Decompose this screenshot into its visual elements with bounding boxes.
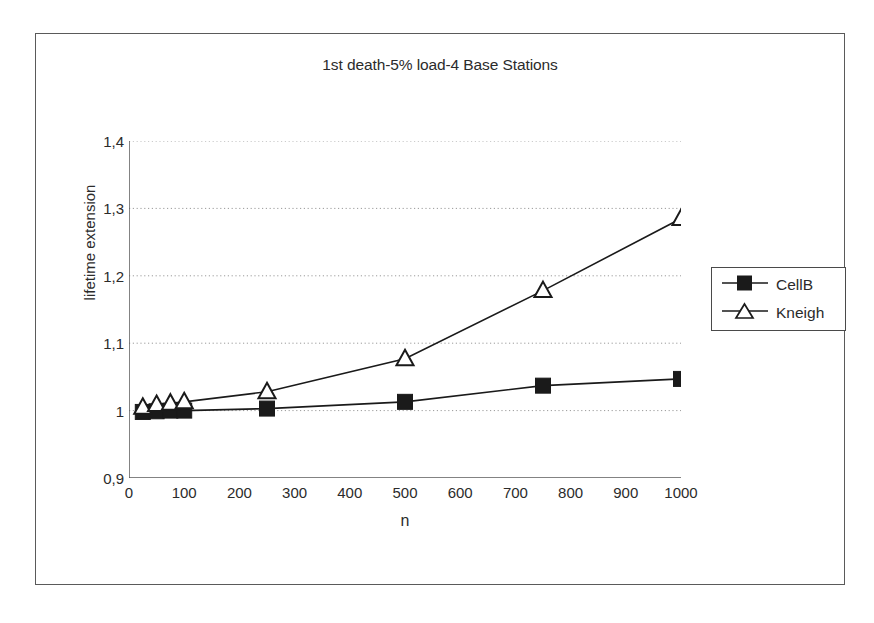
legend-label-kneigh: Kneigh <box>776 304 824 322</box>
gridlines <box>129 141 681 411</box>
x-axis-title: n <box>129 512 681 530</box>
x-tick-label: 500 <box>392 484 417 501</box>
x-tick-label: 300 <box>282 484 307 501</box>
open-triangle-marker-icon <box>720 302 770 324</box>
y-tick-label: 1,4 <box>103 133 124 150</box>
axis-ticks <box>129 141 681 478</box>
x-tick-label: 1000 <box>664 484 697 501</box>
x-tick-label: 900 <box>613 484 638 501</box>
chart-legend: CellB Kneigh <box>711 267 846 331</box>
y-tick-label: 0,9 <box>103 470 124 487</box>
y-tick-label: 1 <box>116 402 124 419</box>
x-tick-label: 700 <box>503 484 528 501</box>
x-axis-tick-labels: 01002003004005006007008009001000 <box>129 484 681 508</box>
data-series-layer <box>134 210 681 420</box>
legend-item-kneigh: Kneigh <box>720 299 845 327</box>
y-tick-label: 1,1 <box>103 335 124 352</box>
x-tick-label: 100 <box>172 484 197 501</box>
y-axis-title: lifetime extension <box>81 143 98 343</box>
x-tick-label: 800 <box>558 484 583 501</box>
axis-lines <box>129 141 681 478</box>
x-tick-label: 0 <box>125 484 133 501</box>
legend-item-cellb: CellB <box>720 271 845 299</box>
figure-frame: 1st death-5% load-4 Base Stations 0,911,… <box>35 33 845 585</box>
y-tick-label: 1,2 <box>103 267 124 284</box>
legend-label-cellb: CellB <box>776 276 813 294</box>
filled-square-marker-icon <box>720 274 770 296</box>
plot-area <box>129 141 681 478</box>
chart-canvas <box>129 141 681 478</box>
x-tick-label: 400 <box>337 484 362 501</box>
x-tick-label: 200 <box>227 484 252 501</box>
y-tick-label: 1,3 <box>103 200 124 217</box>
x-tick-label: 600 <box>448 484 473 501</box>
chart-title: 1st death-5% load-4 Base Stations <box>36 56 844 74</box>
